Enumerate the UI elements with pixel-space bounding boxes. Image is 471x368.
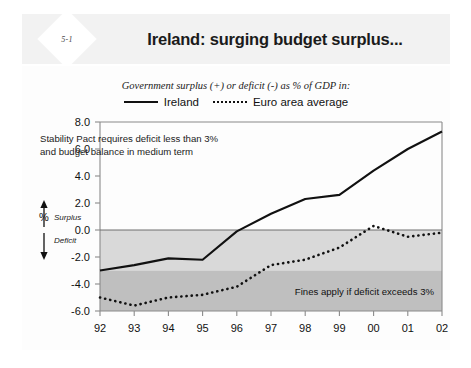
slide-number-label: 5-1 bbox=[46, 18, 88, 60]
chart-legend: Ireland Euro area average bbox=[22, 96, 450, 108]
legend-label-euro-area: Euro area average bbox=[253, 96, 348, 108]
x-tick-label: 02 bbox=[436, 322, 448, 334]
x-axis-ticks: 9293949596979899000102 bbox=[94, 311, 448, 334]
y-tick-label: 2.0 bbox=[75, 197, 90, 209]
surplus-arrow-label: Surplus bbox=[54, 213, 81, 222]
legend-label-ireland: Ireland bbox=[164, 96, 199, 108]
x-tick-label: 93 bbox=[128, 322, 140, 334]
stability-pact-note-line1: Stability Pact requires deficit less tha… bbox=[40, 133, 219, 144]
chart-svg: 8.06.04.02.00.0-2.0-4.0-6.0 929394959697… bbox=[22, 112, 450, 350]
x-tick-label: 98 bbox=[299, 322, 311, 334]
y-tick-label: 0.0 bbox=[75, 224, 90, 236]
legend-item-euro-area: Euro area average bbox=[213, 96, 348, 108]
deficit-band bbox=[100, 230, 442, 271]
x-tick-label: 99 bbox=[333, 322, 345, 334]
slide: 5-1 Ireland: surging budget surplus... G… bbox=[0, 0, 471, 368]
chart-panel: Government surplus (+) or deficit (-) as… bbox=[22, 66, 450, 350]
x-tick-label: 92 bbox=[94, 322, 106, 334]
y-tick-label: 8.0 bbox=[75, 116, 90, 128]
x-tick-label: 96 bbox=[231, 322, 243, 334]
y-tick-label: 4.0 bbox=[75, 170, 90, 182]
x-tick-label: 97 bbox=[265, 322, 277, 334]
x-tick-label: 94 bbox=[162, 322, 174, 334]
deficit-arrow-label: Deficit bbox=[54, 236, 77, 245]
x-tick-label: 95 bbox=[196, 322, 208, 334]
value-bands bbox=[100, 230, 442, 311]
legend-item-ireland: Ireland bbox=[124, 96, 199, 108]
stability-pact-note-line2: and budget balance in medium term bbox=[40, 146, 193, 157]
page-title: Ireland: surging budget surplus... bbox=[120, 14, 430, 64]
chart-subtitle: Government surplus (+) or deficit (-) as… bbox=[22, 80, 450, 91]
x-tick-label: 00 bbox=[367, 322, 379, 334]
y-tick-label: -6.0 bbox=[71, 305, 90, 317]
deficit-arrow bbox=[40, 233, 47, 260]
x-tick-label: 01 bbox=[402, 322, 414, 334]
fines-band-label: Fines apply if deficit exceeds 3% bbox=[295, 286, 435, 297]
y-tick-label: -2.0 bbox=[71, 251, 90, 263]
y-tick-label: -4.0 bbox=[71, 278, 90, 290]
legend-swatch-dotted-icon bbox=[213, 101, 247, 103]
chart-area: 8.06.04.02.00.0-2.0-4.0-6.0 929394959697… bbox=[22, 112, 450, 350]
legend-swatch-solid-icon bbox=[124, 101, 158, 103]
